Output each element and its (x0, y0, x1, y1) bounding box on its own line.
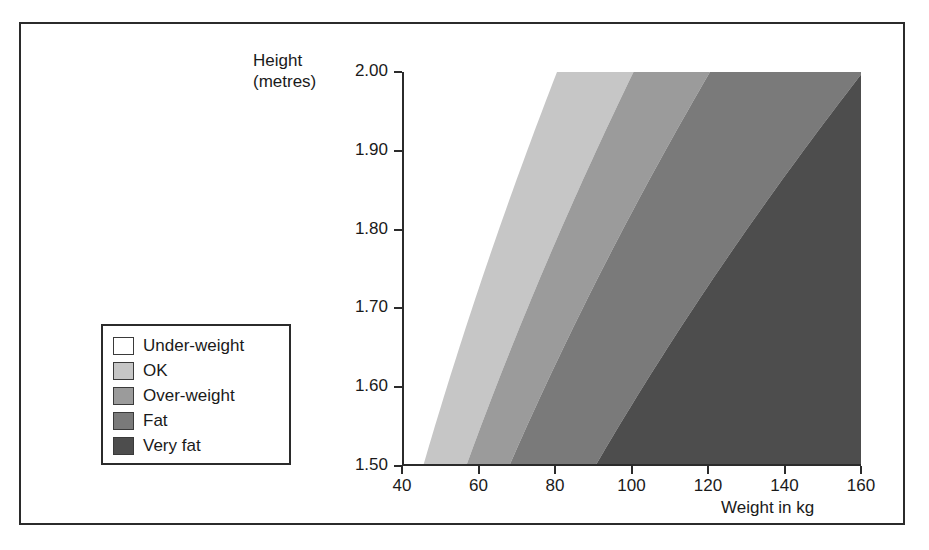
x-tick-mark (631, 466, 633, 474)
x-tick-label: 80 (525, 476, 585, 496)
y-tick-label: 1.80 (332, 219, 388, 239)
y-tick-mark (394, 71, 402, 73)
bmi-bands-group (404, 72, 861, 466)
legend-swatch (113, 437, 134, 455)
legend-item: Over-weight (113, 383, 289, 408)
legend-swatch (113, 387, 134, 405)
y-tick-mark (394, 386, 402, 388)
x-tick-label: 120 (678, 476, 738, 496)
y-tick-mark (394, 307, 402, 309)
y-tick-mark (394, 150, 402, 152)
x-tick-mark (860, 466, 862, 474)
legend-label: OK (143, 361, 168, 381)
x-tick-label: 140 (755, 476, 815, 496)
x-tick-mark (784, 466, 786, 474)
legend-item: OK (113, 358, 289, 383)
y-tick-label: 1.90 (332, 140, 388, 160)
legend-label: Fat (143, 411, 168, 431)
legend-swatch (113, 412, 134, 430)
x-tick-mark (554, 466, 556, 474)
legend-swatch (113, 362, 134, 380)
bmi-band-plot (404, 72, 861, 466)
legend-swatch (113, 337, 134, 355)
x-tick-label: 100 (602, 476, 662, 496)
y-tick-label: 1.50 (332, 455, 388, 475)
x-tick-mark (478, 466, 480, 474)
legend: Under-weightOKOver-weightFatVery fat (101, 324, 291, 465)
y-tick-label: 2.00 (332, 61, 388, 81)
x-tick-label: 40 (372, 476, 432, 496)
legend-item: Very fat (113, 433, 289, 458)
y-tick-mark (394, 229, 402, 231)
x-axis-title: Weight in kg (721, 498, 814, 518)
plot-area (402, 72, 861, 466)
legend-label: Over-weight (143, 386, 235, 406)
chart-figure: Height (metres) Weight in kg 1.501.601.7… (19, 22, 905, 525)
x-tick-label: 60 (449, 476, 509, 496)
legend-label: Very fat (143, 436, 201, 456)
legend-item: Under-weight (113, 333, 289, 358)
legend-label: Under-weight (143, 336, 244, 356)
x-tick-label: 160 (831, 476, 891, 496)
y-tick-label: 1.60 (332, 376, 388, 396)
legend-item: Fat (113, 408, 289, 433)
x-tick-mark (707, 466, 709, 474)
x-tick-mark (401, 466, 403, 474)
y-tick-label: 1.70 (332, 297, 388, 317)
